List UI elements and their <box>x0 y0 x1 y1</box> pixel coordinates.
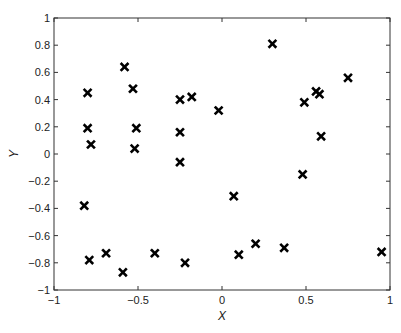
x-tick-label: 0.5 <box>298 294 313 306</box>
y-tick-label: 0.2 <box>35 121 50 133</box>
x-tick-label: 1 <box>387 294 393 306</box>
y-tick-label: −0.2 <box>28 175 50 187</box>
y-axis-label: Y <box>7 149 21 158</box>
x-axis-label: X <box>217 309 227 323</box>
y-tick-label: −0.4 <box>28 202 50 214</box>
y-tick-label: −1 <box>37 284 50 296</box>
y-tick-label: 0.8 <box>35 39 50 51</box>
x-tick-label: 0 <box>219 294 225 306</box>
y-tick-label: 0.6 <box>35 66 50 78</box>
y-tick-label: 0.4 <box>35 94 50 106</box>
y-tick-label: 0 <box>44 148 50 160</box>
scatter-chart: −1−0.500.51 −1−0.8−0.6−0.4−0.200.20.40.6… <box>0 0 401 333</box>
plot-background <box>0 0 401 333</box>
y-tick-label: −0.8 <box>28 257 50 269</box>
x-tick-label: −0.5 <box>127 294 149 306</box>
y-tick-label: 1 <box>44 12 50 24</box>
y-tick-label: −0.6 <box>28 230 50 242</box>
